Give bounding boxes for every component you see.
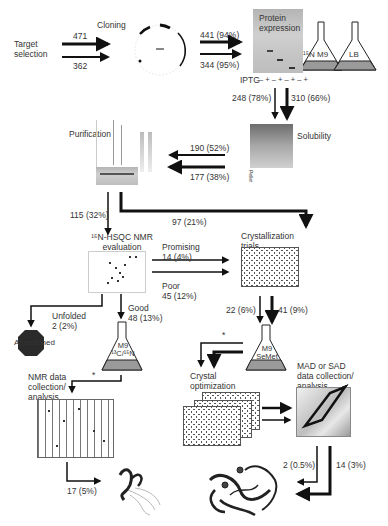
lane-pellet: Pellet — [248, 170, 254, 183]
optimization-plate-front — [183, 406, 241, 446]
stage-nmr-data-collection: NMR data collection/ analysis — [28, 372, 66, 402]
flask-label-15n-m9: ¹⁵N M9 — [303, 50, 328, 60]
stage-abandoned: Abandoned — [14, 338, 55, 348]
iptg-label: IPTG — [240, 75, 260, 85]
arrow-semet-optimization-right — [214, 352, 243, 366]
purification-gel — [96, 167, 138, 185]
arrow-semet-optimization-left — [201, 343, 243, 366]
flow-label-441: 441 (94%) — [200, 30, 239, 40]
flow-label-97: 97 (21%) — [172, 217, 207, 227]
purification-columns-icon — [138, 132, 158, 177]
flask-lb-icon — [334, 22, 376, 70]
flask-label-m9-13c15n: M9 ¹³C/¹⁵N — [108, 342, 138, 358]
stage-solubility: Solubility — [297, 131, 331, 141]
purification-chromatogram — [96, 120, 139, 170]
flow-label-362: 362 — [73, 61, 87, 71]
stage-cloning: Cloning — [97, 20, 126, 30]
flow-label-177: 177 (38%) — [190, 172, 229, 182]
flow-label-promising: Promising 14 (4%) — [162, 242, 200, 262]
flow-label-poor: Poor 45 (12%) — [162, 281, 197, 301]
crystallization-plate — [241, 247, 299, 287]
flow-label-248: 248 (78%) — [232, 93, 271, 103]
flow-label-good: Good 48 (13%) — [128, 303, 163, 323]
stage-target-selection: Target selection — [14, 39, 64, 59]
flow-label-unfolded: Unfolded 2 (2%) — [52, 311, 86, 331]
flow-label-2: 2 (0.5%) — [283, 460, 315, 470]
asterisk-13c15n: * — [92, 370, 95, 380]
flow-label-22: 22 (6%) — [226, 305, 256, 315]
flask-label-lb: LB — [349, 50, 359, 60]
flow-label-190: 190 (52%) — [190, 143, 229, 153]
arrow-flask-nmr-data — [72, 375, 121, 392]
hsqc-spectrum — [88, 251, 146, 293]
arrow-mad-structure-right — [298, 446, 330, 494]
asterisk-semet: * — [222, 330, 225, 340]
flow-label-17: 17 (5%) — [67, 486, 97, 496]
stage-hsqc-evaluation: ¹⁵N-HSQC NMR evaluation — [82, 232, 162, 252]
plasmid-map-icon — [135, 25, 185, 75]
xray-structure-ribbon-icon — [210, 466, 276, 515]
nmr-strip-plot — [37, 399, 114, 458]
flask-15n-m9-icon — [300, 22, 342, 70]
nmr-structure-ribbon-icon — [120, 470, 160, 515]
crystal-image — [296, 387, 351, 437]
flow-label-41: 41 (9%) — [278, 305, 308, 315]
flow-label-344: 344 (95%) — [200, 60, 239, 70]
flow-label-471: 471 — [73, 31, 87, 41]
flow-label-310: 310 (66%) — [291, 93, 330, 103]
flask-label-m9-semet: M9 SeMet — [252, 345, 282, 361]
solubility-gel — [250, 124, 293, 168]
solubility-lane-labels: Pellet — [248, 170, 254, 200]
arrow-nmr-structure — [67, 462, 100, 481]
iptg-lanes: – + – + – + – + — [259, 75, 308, 85]
flow-label-115: 115 (32%) — [70, 210, 109, 220]
arrow-purification-crystallization — [121, 192, 306, 226]
stage-protein-expression: Protein expression — [259, 13, 300, 33]
stage-crystal-optimization: Crystal optimization — [190, 371, 235, 391]
flow-label-14: 14 (3%) — [336, 460, 366, 470]
